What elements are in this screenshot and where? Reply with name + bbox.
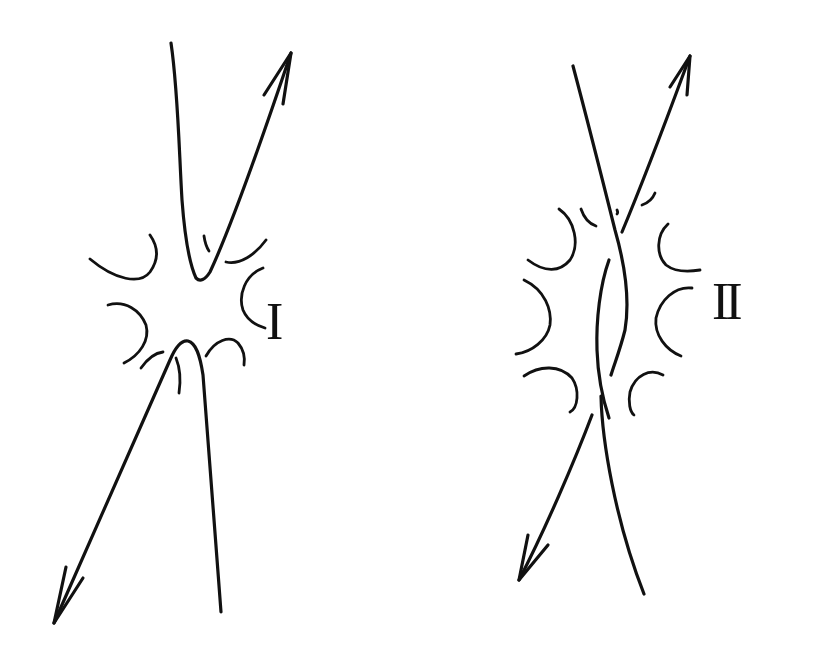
arc-fragment — [204, 236, 209, 251]
arc-fragment — [642, 193, 655, 205]
strand-a — [573, 66, 627, 375]
arc-fragment — [659, 224, 700, 271]
diagram-2 — [516, 56, 700, 594]
arc-fragment — [629, 372, 663, 415]
arc-fragment — [241, 268, 265, 328]
arc-fragment — [226, 240, 266, 263]
arrow-down-left-icon — [519, 535, 548, 580]
arc-fragment — [176, 358, 180, 393]
arc-fragment — [206, 339, 244, 365]
diagram-2-label: II — [712, 276, 739, 328]
arc-fragment — [528, 209, 575, 269]
strand-b-middle — [597, 260, 609, 418]
tangle-diagrams — [0, 0, 819, 648]
arc-fragment — [108, 304, 147, 363]
strand-lower-v — [54, 341, 221, 623]
arc-fragment — [581, 209, 596, 226]
arrow-down-left-icon — [54, 567, 83, 623]
arc-fragment — [90, 235, 156, 279]
arc-fragment — [617, 210, 618, 214]
strand-b-upper — [622, 56, 690, 232]
arc-fragment — [516, 280, 550, 354]
arrow-up-right-icon — [670, 56, 690, 95]
strand-b-lower — [519, 415, 592, 580]
strand-a-lower — [601, 396, 644, 594]
arc-fragment — [141, 352, 163, 368]
arc-fragment — [656, 288, 692, 356]
arc-fragment — [524, 368, 577, 412]
diagram-1-label: I — [266, 296, 283, 348]
diagram-1 — [54, 43, 291, 623]
